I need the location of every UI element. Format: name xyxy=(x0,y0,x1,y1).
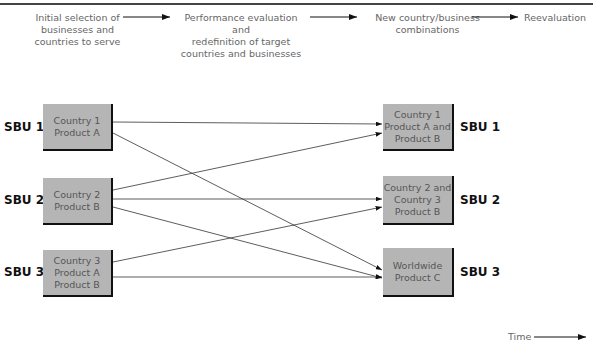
right-sbu-label-3: SBU 3 xyxy=(460,265,500,279)
right-box-sbu3: Worldwide Product C xyxy=(383,248,454,297)
time-label: Time xyxy=(508,331,531,342)
right-sbu-label-2: SBU 2 xyxy=(460,193,500,207)
left-sbu-label-2: SBU 2 xyxy=(4,193,44,207)
right-sbu-label-1: SBU 1 xyxy=(460,120,500,134)
left-sbu-label-3: SBU 3 xyxy=(4,265,44,279)
connection-lines xyxy=(0,0,593,353)
right-box-sbu2: Country 2 and Country 3 Product B xyxy=(383,176,454,225)
right-box-sbu1: Country 1 Product A and Product B xyxy=(383,104,454,151)
left-box-sbu2: Country 2 Product B xyxy=(43,178,113,225)
left-box-sbu1: Country 1 Product A xyxy=(43,104,113,151)
left-box-sbu3: Country 3 Product A Product B xyxy=(43,250,113,297)
left-sbu-label-1: SBU 1 xyxy=(4,120,44,134)
